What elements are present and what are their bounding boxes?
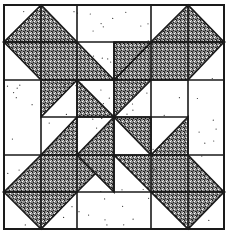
fabric-dot — [67, 178, 68, 179]
fabric-dot — [93, 56, 94, 57]
fabric-dot — [19, 85, 20, 86]
fabric-dot — [212, 78, 213, 79]
fabric-dot — [71, 206, 72, 207]
fabric-dot — [55, 145, 56, 146]
fabric-dot — [101, 23, 102, 24]
fabric-dot — [208, 220, 209, 221]
fabric-dot — [42, 15, 43, 16]
fabric-dot — [185, 46, 186, 47]
fabric-dot — [96, 128, 97, 129]
fabric-dot — [65, 84, 66, 85]
fabric-dot — [35, 56, 36, 57]
fabric-dot — [133, 97, 134, 98]
fabric-dot — [123, 224, 124, 225]
fabric-dot — [189, 13, 190, 14]
fabric-dot — [206, 196, 207, 197]
fabric-dot — [200, 30, 201, 31]
fabric-dot — [110, 62, 111, 63]
fabric-dot — [140, 25, 141, 26]
fabric-dot — [179, 97, 180, 98]
fabric-dot — [103, 103, 104, 104]
fabric-dot — [176, 162, 177, 163]
fabric-dot — [22, 200, 23, 201]
fabric-dot — [132, 110, 133, 111]
fabric-dot — [73, 11, 74, 12]
fabric-dot — [31, 204, 32, 205]
fabric-dot — [17, 88, 18, 89]
fabric-dot — [39, 176, 40, 177]
fabric-dot — [213, 140, 214, 141]
fabric-dot — [122, 206, 123, 207]
fabric-dot — [44, 17, 45, 18]
fabric-dot — [102, 58, 103, 59]
fabric-dot — [121, 68, 122, 69]
fabric-dot — [176, 37, 177, 38]
fabric-dot — [62, 59, 63, 60]
fabric-dot — [197, 215, 198, 216]
fabric-dot — [45, 151, 46, 152]
fabric-dot — [55, 72, 56, 73]
fabric-dot — [42, 223, 43, 224]
fabric-dot — [204, 143, 205, 144]
fabric-dot — [92, 119, 93, 120]
fabric-dot — [55, 189, 56, 190]
fabric-dot — [126, 114, 127, 115]
fabric-dot — [158, 160, 159, 161]
fabric-dot — [212, 48, 213, 49]
fabric-dot — [147, 23, 148, 24]
fabric-dot — [143, 189, 144, 190]
fabric-dot — [65, 135, 66, 136]
fabric-dot — [104, 128, 105, 129]
fabric-dot — [12, 139, 13, 140]
fabric-dot — [160, 147, 161, 148]
fabric-dot — [133, 219, 134, 220]
fabric-dot — [135, 93, 136, 94]
fabric-dot — [88, 215, 89, 216]
fabric-dot — [153, 149, 154, 150]
fabric-dot — [103, 26, 104, 27]
fabric-dot — [191, 219, 192, 220]
fabric-dot — [63, 217, 64, 218]
fabric-dot — [66, 114, 67, 115]
fabric-dot — [19, 170, 20, 171]
fabric-dot — [31, 104, 32, 105]
fabric-dot — [63, 86, 64, 87]
fabric-dot — [111, 130, 112, 131]
fabric-dot — [46, 73, 47, 74]
fabric-dot — [90, 13, 91, 14]
fabric-dot — [112, 18, 113, 19]
fabric-dot — [167, 147, 168, 148]
fabric-dot — [52, 93, 53, 94]
fabric-dot — [80, 57, 81, 58]
quilt-diagram — [0, 0, 230, 238]
fabric-dot — [121, 189, 122, 190]
fabric-dot — [23, 210, 24, 211]
fabric-dot — [78, 211, 79, 212]
fabric-dot — [56, 169, 57, 170]
fabric-dot — [23, 11, 24, 12]
fabric-dot — [104, 219, 105, 220]
fabric-dot — [146, 93, 147, 94]
fabric-dot — [81, 83, 82, 84]
fabric-dot — [132, 103, 133, 104]
fabric-dot — [176, 208, 177, 209]
fabric-dot — [100, 89, 101, 90]
fabric-dot — [125, 12, 126, 13]
fabric-dot — [7, 173, 8, 174]
fabric-dot — [216, 129, 217, 130]
fabric-dot — [154, 169, 155, 170]
fabric-dot — [168, 179, 169, 180]
fabric-dot — [104, 198, 105, 199]
fabric-dot — [103, 169, 104, 170]
fabric-dot — [25, 224, 26, 225]
fabric-dot — [199, 132, 200, 133]
fabric-dot — [64, 175, 65, 176]
fabric-dot — [120, 99, 121, 100]
fabric-dot — [34, 166, 35, 167]
fabric-dot — [107, 58, 108, 59]
fabric-dot — [169, 150, 170, 151]
fabric-dot — [136, 95, 137, 96]
fabric-dot — [23, 21, 24, 22]
fabric-dot — [80, 98, 81, 99]
fabric-dot — [199, 65, 200, 66]
